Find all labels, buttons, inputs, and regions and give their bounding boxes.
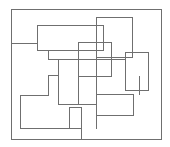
rectilinear-line-diagram [0,0,170,147]
center-horizontal-50 [38,26,104,51]
outer-frame [12,10,162,140]
top-left-stepped-path [12,26,104,44]
lower-right-rect [97,95,134,116]
right-small-rect [126,53,149,91]
lower-middle-rect [70,108,82,129]
large-right-rect [97,18,133,58]
lower-left-l-path [21,76,82,129]
diagram-shape-layer [12,10,162,140]
upper-step-path [38,44,59,60]
